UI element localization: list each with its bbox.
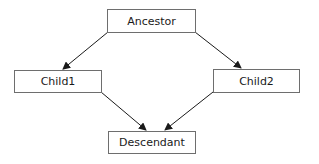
node-label: Child2 (239, 75, 274, 88)
node-label: Descendant (119, 136, 185, 149)
edge-ancestor-child1 (63, 32, 108, 69)
node-child2: Child2 (213, 69, 300, 93)
edge-ancestor-child2 (195, 32, 241, 68)
node-descendant: Descendant (108, 131, 196, 154)
node-ancestor: Ancestor (107, 9, 196, 33)
node-label: Ancestor (127, 15, 176, 28)
node-child1: Child1 (14, 70, 102, 93)
edge-child1-descendant (101, 92, 146, 130)
node-label: Child1 (41, 75, 76, 88)
edge-child2-descendant (165, 92, 213, 130)
